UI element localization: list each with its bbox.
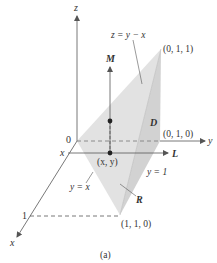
L-label: L [171,148,178,159]
line-y1-label: y = 1 [146,167,167,177]
R-label: R [135,194,143,205]
point-110-label: (1, 1, 0) [121,219,151,230]
point-xy-label: (x, y) [97,157,118,168]
line-yx-label: y = x [69,182,90,192]
x-tick-label: 1 [22,210,27,221]
point-010-label: (0, 1, 0) [163,129,193,140]
M-label: M [105,53,116,64]
z-axis-label: z [73,2,78,13]
point-xy [108,151,113,156]
D-label: D [149,117,157,128]
origin-label: 0 [66,134,71,145]
figure-caption: (a) [100,250,111,261]
point-on-surface [108,119,113,124]
x-axis [17,141,77,237]
x-axis-label: x [9,237,15,248]
diagram-canvas: z x y 0 1 x z = y − x (0, 1, 1) (0, 1, 0… [0,0,217,263]
y-axis-label: y [207,135,213,146]
surface-label: z = y − x [110,30,146,40]
x-line-label: x [59,147,65,158]
point-011-label: (0, 1, 1) [163,44,193,55]
